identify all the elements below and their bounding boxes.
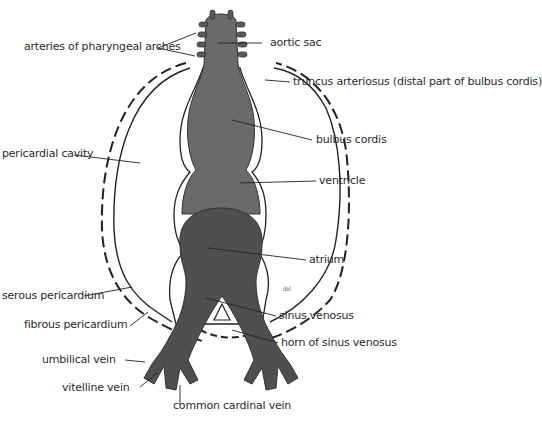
illustrator-signature: ibl.: [283, 285, 292, 292]
label-serous-pericardium: serous pericardium: [2, 290, 104, 302]
label-ventricle: ventricle: [319, 175, 365, 187]
label-bulbus-cordis: bulbus cordis: [316, 134, 386, 146]
label-sinus-venosus: sinus venosus: [279, 310, 354, 322]
label-vitelline-vein: vitelline vein: [62, 382, 130, 394]
label-truncus-arteriosus: truncus arteriosus (distal part of bulbu…: [293, 76, 542, 88]
label-fibrous-pericardium: fibrous pericardium: [24, 319, 128, 331]
label-aortic-sac: aortic sac: [270, 37, 321, 49]
label-umbilical-vein: umbilical vein: [42, 354, 116, 366]
heart-tube-upper: [182, 14, 260, 214]
label-horn-sinus-venosus: horn of sinus venosus: [281, 337, 397, 349]
label-pericardial-cavity: pericardial cavity: [2, 148, 93, 160]
label-arteries-pharyngeal-arches: arteries of pharyngeal arches: [24, 41, 181, 53]
label-common-cardinal-vein: common cardinal vein: [173, 400, 291, 412]
label-atrium: atrium: [309, 254, 344, 266]
